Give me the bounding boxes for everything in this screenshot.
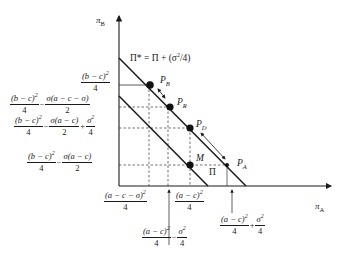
- y-axis-label: πB: [96, 16, 105, 25]
- arrow-pd-pa: [201, 133, 225, 159]
- xtick-3: (a − c)24: [175, 191, 204, 211]
- pi-star-equation: Π* = Π + (σ2/4): [130, 54, 191, 64]
- point-pd: [186, 124, 193, 131]
- ytick-2: (b − c)24 − σ(a − c − σ)2: [10, 94, 90, 114]
- xtick-4: (a − c)24 + σ24: [220, 215, 265, 235]
- pr-label: PR: [177, 98, 187, 108]
- m-label: M: [196, 154, 204, 164]
- point-pa: [225, 163, 229, 167]
- point-m: [186, 161, 193, 168]
- arrow-pb-pr: [158, 89, 165, 98]
- ytick-4: (b − c)24 − σ(a − c)2: [27, 152, 92, 172]
- pa-label: PA: [237, 159, 247, 169]
- point-pb: [146, 81, 154, 89]
- point-pr: [166, 103, 173, 110]
- pi-line-label: Π: [209, 168, 216, 178]
- xtick-1: (a − c − σ)24: [104, 191, 147, 211]
- ytick-1: (b − c)24: [81, 72, 110, 92]
- pd-label: PD: [196, 120, 207, 130]
- pi-line: [119, 96, 208, 186]
- ytick-3: (b − c)24 − σ(a − c)2 + σ24: [14, 116, 95, 136]
- x-axis-label: πA: [315, 202, 324, 211]
- pb-label: PB: [160, 76, 170, 86]
- xtick-2: (a − c)24 − σ24: [142, 227, 187, 247]
